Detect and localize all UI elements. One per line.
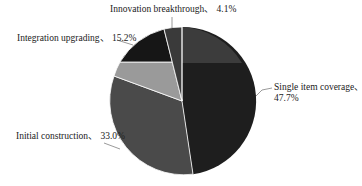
leader-single [256, 88, 272, 96]
pie-svg [0, 0, 362, 186]
pie-chart: Innovation breakthrough、 4.1% Integratio… [0, 0, 362, 186]
leader-initial [104, 143, 120, 149]
label-single-item-coverage: Single item coverage、 [274, 82, 362, 93]
slice-single-item-coverage-top [182, 27, 242, 63]
label-integration-upgrading: Integration upgrading、 15.2% [17, 33, 137, 44]
label-single-item-coverage-value: 47.7% [274, 93, 299, 104]
label-initial-construction: Initial construction、 33.0% [16, 131, 125, 142]
label-innovation-breakthrough: Innovation breakthrough、 4.1% [110, 4, 236, 15]
